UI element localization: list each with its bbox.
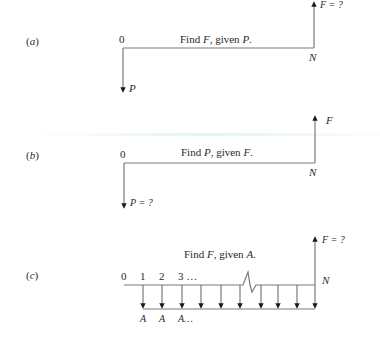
panel-label-c: (c) bbox=[26, 269, 38, 281]
annuity-label-1: A bbox=[140, 313, 146, 324]
panel-label-b: (b) bbox=[26, 149, 39, 161]
diagram-b bbox=[124, 118, 315, 206]
annuity-arrows bbox=[143, 285, 315, 306]
up-arrow-label-c: F = ? bbox=[322, 234, 345, 245]
end-label-c: N bbox=[322, 274, 329, 286]
end-label-a: N bbox=[309, 51, 316, 63]
timeline-c bbox=[124, 272, 315, 292]
down-arrow-label-a: P bbox=[129, 82, 136, 94]
end-label-b: N bbox=[309, 166, 316, 178]
panel-label-a: (a) bbox=[26, 35, 39, 47]
up-arrow-label-a: F = ? bbox=[320, 0, 343, 10]
cash-flow-diagrams bbox=[0, 0, 380, 343]
caption-c: Find F, given A. bbox=[184, 248, 256, 260]
period-label-0: 0 bbox=[121, 270, 127, 282]
annuity-label-3: A… bbox=[178, 313, 193, 324]
caption-b: Find P, given F. bbox=[181, 146, 253, 158]
period-label-3: 3 … bbox=[178, 270, 197, 282]
period-label-2: 2 bbox=[159, 270, 165, 282]
up-arrow-label-b: F bbox=[326, 114, 333, 126]
down-arrow-label-b: P = ? bbox=[130, 197, 153, 208]
caption-a: Find F, given P. bbox=[180, 33, 252, 45]
start-label-b: 0 bbox=[120, 148, 126, 160]
diagram-a bbox=[123, 4, 314, 90]
start-label-a: 0 bbox=[119, 33, 125, 45]
annuity-label-2: A bbox=[159, 313, 165, 324]
period-label-1: 1 bbox=[140, 270, 146, 282]
